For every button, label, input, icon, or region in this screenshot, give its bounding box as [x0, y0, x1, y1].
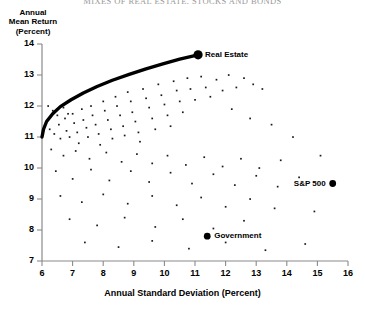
scatter-point: [75, 150, 77, 152]
scatter-point: [320, 155, 322, 157]
scatter-point: [112, 138, 114, 140]
scatter-point: [167, 115, 169, 117]
x-tick-label: 7: [64, 268, 82, 278]
x-tick-label: 14: [278, 268, 296, 278]
scatter-point: [210, 96, 212, 98]
scatter-point: [102, 194, 104, 196]
marker-s-p-500[interactable]: [329, 180, 336, 187]
x-tick-label: 12: [217, 268, 235, 278]
scatter-point: [50, 149, 52, 151]
scatter-point: [96, 225, 98, 227]
scatter-point: [231, 108, 233, 110]
scatter-point: [243, 77, 245, 79]
scatter-point: [222, 90, 224, 92]
scatter-point: [124, 217, 126, 219]
scatter-point: [200, 76, 202, 78]
scatter-point: [72, 113, 74, 115]
scatter-point: [131, 111, 133, 113]
scatter-point: [271, 124, 273, 126]
scatter-point: [161, 94, 163, 96]
scatter-point: [213, 228, 215, 230]
scatter-point: [249, 198, 251, 200]
x-tick-label: 10: [155, 268, 173, 278]
efficient-frontier-curve: [42, 55, 198, 137]
scatter-point: [225, 206, 227, 208]
y-tick-label: 13: [12, 69, 34, 79]
scatter-point: [95, 124, 97, 126]
scatter-point: [170, 172, 172, 174]
scatter-point: [107, 119, 109, 121]
scatter-point: [188, 248, 190, 250]
scatter-point: [109, 180, 111, 182]
scatter-point: [92, 115, 94, 117]
scatter-point: [63, 155, 65, 157]
scatter-point: [258, 167, 260, 169]
scatter-point: [83, 119, 85, 121]
scatter-point: [118, 246, 120, 248]
scatter-point: [69, 136, 71, 138]
scatter-point: [200, 197, 202, 199]
y-tick-label: 11: [12, 131, 34, 141]
scatter-point: [228, 74, 230, 76]
scatter-point: [154, 226, 156, 228]
scatter-point: [58, 124, 60, 126]
scatter-point: [182, 111, 184, 113]
marker-real-estate[interactable]: [193, 50, 202, 59]
scatter-point: [222, 166, 224, 168]
scatter-point: [151, 163, 153, 165]
scatter-point: [265, 249, 267, 251]
x-tick-label: 11: [186, 268, 204, 278]
scatter-point: [249, 118, 251, 120]
scatter-point: [304, 243, 306, 245]
marker-government[interactable]: [204, 233, 211, 240]
x-tick-label: 8: [94, 268, 112, 278]
scatter-point: [90, 105, 92, 107]
chart-container: MIXES OF REAL ESTATE, STOCKS AND BONDS A…: [0, 0, 365, 313]
scatter-point: [243, 220, 245, 222]
scatter-point: [90, 169, 92, 171]
scatter-point: [164, 104, 166, 106]
y-tick-label: 12: [12, 100, 34, 110]
x-tick-label: 13: [247, 268, 265, 278]
scatter-point: [136, 153, 138, 155]
y-tick-label: 14: [12, 38, 34, 48]
scatter-point: [236, 87, 238, 89]
scatter-point: [148, 181, 150, 183]
scatter-point: [127, 203, 129, 205]
scatter-point: [216, 79, 218, 81]
scatter-point: [98, 133, 100, 135]
scatter-point: [252, 84, 254, 86]
scatter-point: [122, 125, 124, 127]
scatter-point: [292, 136, 294, 138]
scatter-point: [89, 158, 91, 160]
y-tick-label: 10: [12, 162, 34, 172]
scatter-point: [64, 118, 66, 120]
scatter-point: [84, 242, 86, 244]
point-label-government: Government: [214, 231, 261, 240]
scatter-point: [225, 242, 227, 244]
scatter-point: [191, 183, 193, 185]
scatter-point: [173, 80, 175, 82]
scatter-point: [240, 158, 242, 160]
scatter-point: [55, 170, 57, 172]
x-tick-label: 9: [125, 268, 143, 278]
plot-area: [0, 0, 365, 313]
scatter-point: [104, 110, 106, 112]
scatter-point: [76, 132, 78, 134]
x-tick-label: 16: [339, 268, 357, 278]
scatter-point: [116, 105, 118, 107]
scatter-point: [57, 115, 59, 117]
scatter-point: [67, 113, 69, 115]
scatter-point: [110, 128, 112, 130]
scatter-point: [170, 125, 172, 127]
scatter-point: [179, 101, 181, 103]
scatter-point: [130, 170, 132, 172]
scatter-point: [69, 218, 71, 220]
scatter-point: [145, 97, 147, 99]
scatter-point: [60, 138, 62, 140]
point-label-real-estate: Real Estate: [205, 50, 248, 59]
scatter-point: [262, 88, 264, 90]
scatter-point: [205, 87, 207, 89]
scatter-point: [81, 108, 83, 110]
x-tick-label: 6: [33, 268, 51, 278]
